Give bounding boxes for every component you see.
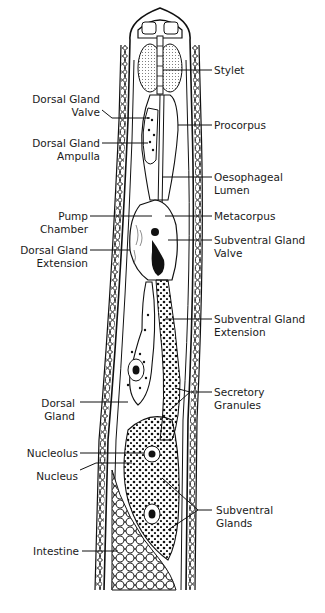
label-metacorpus: Metacorpus [214,210,275,223]
stylet-knobs [138,36,182,94]
label-intestine: Intestine [33,545,79,558]
label-subventral-gland-valve: Subventral GlandValve [214,234,305,260]
nematode-diagram [0,0,325,613]
label-pump-chamber: PumpChamber [40,210,88,236]
label-subventral-glands: SubventralGlands [216,504,273,530]
label-procorpus: Procorpus [214,119,266,132]
label-nucleolus: Nucleolus [27,447,78,460]
label-nucleus: Nucleus [36,470,78,483]
label-dorsal-gland-extension: Dorsal GlandExtension [20,244,88,270]
dorsal-gland [127,282,155,405]
label-dorsal-gland-valve: Dorsal GlandValve [32,93,100,119]
label-dorsal-gland: DorsalGland [41,397,75,423]
head-cap [138,20,182,38]
label-stylet: Stylet [214,64,245,77]
label-subventral-gland-extension: Subventral GlandExtension [214,313,305,339]
label-oesophageal-lumen: OesophagealLumen [214,171,283,197]
subventral-gland-extension [156,280,180,440]
dorsal-gland-ampulla [143,108,158,164]
label-dorsal-gland-ampulla: Dorsal GlandAmpulla [32,137,100,163]
label-secretory-granules: SecretoryGranules [214,386,265,412]
